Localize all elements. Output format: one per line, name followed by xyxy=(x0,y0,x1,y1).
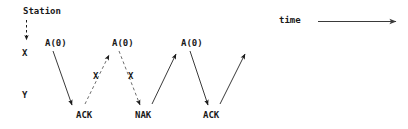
message-line-a0-1 xyxy=(53,51,72,105)
message-line-nak-1 xyxy=(152,54,176,104)
message-label-nak-1: NAK xyxy=(135,110,151,120)
station-label: Station xyxy=(23,6,61,16)
loss-marker-2: X xyxy=(128,71,133,81)
message-label-ack-2: ACK xyxy=(203,110,219,120)
station-x-label: X xyxy=(22,48,27,58)
message-line-a0-3 xyxy=(190,51,208,105)
message-label-ack-1: ACK xyxy=(76,110,92,120)
message-label-a0-3: A(0) xyxy=(181,38,203,48)
loss-marker-1: X xyxy=(93,71,98,81)
sequence-diagram-canvas: Station X Y time A(0) A(0) A(0) X X ACK … xyxy=(0,0,408,129)
message-line-ack-2 xyxy=(220,54,245,104)
message-label-a0-1: A(0) xyxy=(45,38,67,48)
message-label-a0-2: A(0) xyxy=(112,38,134,48)
time-axis-label: time xyxy=(279,15,301,25)
station-y-label: Y xyxy=(22,90,27,100)
